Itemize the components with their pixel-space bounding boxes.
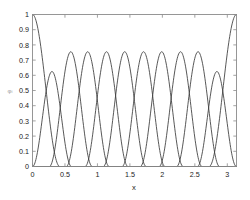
y-tick-label: 0.2	[19, 132, 29, 141]
x-axis-title: x	[132, 183, 136, 192]
x-tick-label: 0	[31, 170, 35, 179]
y-tick-label: 0.4	[19, 101, 29, 110]
y-tick-label: 0	[25, 162, 29, 171]
y-tick-label-group: 00.10.20.30.40.50.60.70.80.91	[19, 10, 29, 171]
basis-function-plot: 00.511.522.53 00.10.20.30.40.50.60.70.80…	[0, 0, 250, 200]
x-tick-label: 2	[160, 170, 164, 179]
x-tick-label: 0.5	[60, 170, 70, 179]
y-tick-label: 0.3	[19, 117, 29, 126]
x-tick-label: 1	[95, 170, 99, 179]
y-tick-label: 1	[25, 10, 29, 19]
y-tick-label: 0.5	[19, 86, 29, 95]
y-axis-title: φᵢ	[8, 88, 13, 94]
chart-figure: 00.511.522.53 00.10.20.30.40.50.60.70.80…	[0, 0, 250, 200]
y-tick-label: 0.6	[19, 71, 29, 80]
y-tick-label: 0.9	[19, 25, 29, 34]
y-tick-label: 0.1	[19, 147, 29, 156]
x-tick-label: 2.5	[190, 170, 200, 179]
y-tick-label: 0.7	[19, 56, 29, 65]
x-tick-label: 3	[225, 170, 229, 179]
y-tick-label: 0.8	[19, 41, 29, 50]
x-tick-label: 1.5	[125, 170, 135, 179]
x-tick-label-group: 00.511.522.53	[31, 170, 230, 179]
